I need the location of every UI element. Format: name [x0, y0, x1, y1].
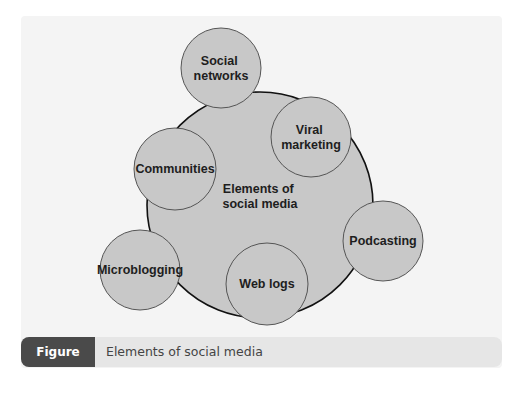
node-label: Podcasting [349, 234, 416, 248]
node-label: Social networks [194, 54, 249, 83]
node-viral-marketing: Viral marketing [271, 97, 351, 177]
node-podcasting: Podcasting [343, 201, 423, 281]
node-label: Communities [135, 162, 214, 176]
node-circle [181, 28, 261, 108]
center-label: Elements of social media [222, 182, 298, 211]
node-social-networks: Social networks [181, 28, 261, 108]
node-label-line: Communities [135, 162, 214, 176]
figure-caption-bar: Figure 19.3 Elements of social media [21, 337, 502, 367]
center-label-line: Elements of [223, 182, 295, 196]
node-web-logs: Web logs [226, 243, 308, 325]
node-label: Microblogging [97, 263, 183, 277]
node-label-line: marketing [281, 138, 341, 152]
node-circle [271, 97, 351, 177]
node-label-line: Web logs [239, 277, 294, 291]
node-label: Web logs [239, 277, 294, 291]
node-label-line: networks [194, 69, 249, 83]
node-label-line: Microblogging [97, 263, 183, 277]
node-communities: Communities [134, 128, 216, 210]
figure-number-badge: Figure 19.3 [21, 337, 95, 367]
node-label-line: Social [201, 54, 238, 68]
figure-caption-text: Elements of social media [106, 337, 263, 367]
center-label-line: social media [222, 197, 298, 211]
node-label-line: Viral [296, 123, 323, 137]
node-label-line: Podcasting [349, 234, 416, 248]
